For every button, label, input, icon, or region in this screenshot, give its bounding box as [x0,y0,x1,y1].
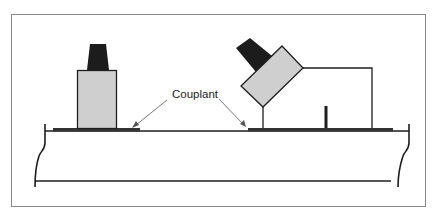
figure-frame [12,15,426,207]
right-break-line [398,124,409,187]
diagram-canvas: Couplant [0,0,438,213]
straight-probe-cable-cap [87,44,109,70]
angle-beam-probe [236,38,303,107]
wedge-post [325,106,328,128]
straight-probe-body [78,71,117,129]
left-arrow-line [136,100,167,125]
left-break-line [35,124,45,187]
straight-beam-probe [78,44,117,129]
couplant-arrows [132,99,246,128]
right-arrow-line [219,99,243,124]
left-arrow-head-icon [132,121,139,128]
couplant-label: Couplant [172,88,219,100]
right-couplant-layer [248,128,393,132]
wedge-outline [303,68,372,128]
test-piece [35,124,409,187]
right-arrow-head-icon [240,120,246,127]
